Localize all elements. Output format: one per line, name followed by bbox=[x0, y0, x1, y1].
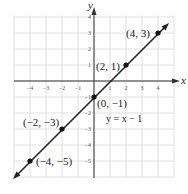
x-tick-label: −4 bbox=[27, 85, 33, 91]
point-label-0-neg1: (0, −1) bbox=[97, 97, 127, 110]
equation-label: y = x − 1 bbox=[106, 113, 142, 124]
x-tick-label: 4 bbox=[157, 85, 160, 91]
y-tick-label: −4 bbox=[85, 142, 91, 148]
point-label-neg2-neg3: (−2, −3) bbox=[23, 116, 60, 129]
x-axis-label: x bbox=[180, 74, 186, 86]
y-tick-label: −5 bbox=[85, 158, 91, 164]
data-point bbox=[123, 62, 128, 67]
y-tick-label: 2 bbox=[88, 46, 91, 52]
point-label-neg4-neg5: (−4, −5) bbox=[36, 155, 73, 168]
x-tick-label: 3 bbox=[141, 85, 144, 91]
x-axis-arrow-icon bbox=[172, 79, 180, 84]
y-tick-label: 1 bbox=[88, 62, 91, 68]
x-tick-label: −2 bbox=[59, 85, 65, 91]
data-point bbox=[27, 158, 32, 163]
y-tick-label: −2 bbox=[85, 110, 91, 116]
y-tick-label: −3 bbox=[85, 126, 91, 132]
coordinate-plane: x y −4−3−2−112344321−1−2−3−4−5 (4, 3) (2… bbox=[0, 0, 188, 194]
y-tick-label: 4 bbox=[88, 14, 91, 20]
x-tick-label: −1 bbox=[75, 85, 81, 91]
data-point bbox=[155, 30, 160, 35]
data-point bbox=[59, 126, 64, 131]
y-tick-label: 3 bbox=[88, 30, 91, 36]
y-tick-label: −1 bbox=[85, 94, 91, 100]
x-tick-label: 1 bbox=[109, 85, 112, 91]
y-axis-label: y bbox=[87, 0, 93, 11]
point-label-2-1: (2, 1) bbox=[96, 60, 120, 73]
point-label-4-3: (4, 3) bbox=[126, 27, 150, 40]
x-tick-label: −3 bbox=[43, 85, 49, 91]
x-tick-label: 2 bbox=[125, 85, 128, 91]
data-point bbox=[91, 94, 96, 99]
